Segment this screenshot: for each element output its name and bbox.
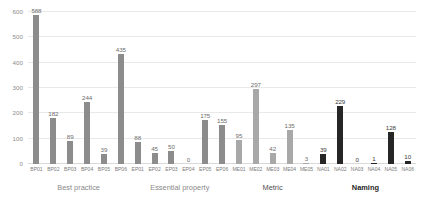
bar-value-label: 39: [320, 146, 327, 153]
bar-slot: 50: [163, 12, 180, 164]
x-axis-tick-labels: BP01BP02BP03BP04BP05BP06EP01EP02EP03EP04…: [28, 166, 416, 172]
bar-slot: 0: [180, 12, 197, 164]
bar[interactable]: 39: [101, 154, 107, 164]
x-axis-tick-label-na02: NA02: [332, 166, 349, 172]
bar-slot: 39: [96, 12, 113, 164]
bar-value-label: 244: [82, 94, 92, 101]
bar-value-label: 88: [134, 134, 141, 141]
bar-slot: 45: [146, 12, 163, 164]
bar[interactable]: 297: [253, 89, 259, 164]
x-axis-tick-label-bp05: BP05: [96, 166, 113, 172]
group-label-essential-property: Essential property: [129, 183, 230, 192]
bar-value-label: 229: [335, 98, 345, 105]
group-label-naming: Naming: [315, 183, 416, 192]
group-label-best-practice: Best practice: [28, 183, 129, 192]
bar-slot: 175: [197, 12, 214, 164]
y-axis-tick-label: 300: [12, 84, 23, 91]
bar[interactable]: 1: [371, 163, 377, 164]
y-axis-tick-label: 100: [12, 134, 23, 141]
bar[interactable]: 182: [50, 118, 56, 164]
x-axis-tick-label-me04: ME04: [281, 166, 298, 172]
bar[interactable]: 155: [219, 125, 225, 164]
bar[interactable]: 3: [303, 163, 309, 164]
bar-slot: 1: [366, 12, 383, 164]
bar-value-label: 1: [372, 155, 375, 162]
bar-value-label: 39: [101, 146, 108, 153]
bar-value-label: 0: [355, 156, 358, 163]
bar-value-label: 588: [31, 7, 41, 14]
x-axis-tick-label-bp01: BP01: [28, 166, 45, 172]
x-axis-tick-label-na04: NA04: [366, 166, 383, 172]
bar-value-label: 3: [305, 155, 308, 162]
bar[interactable]: 244: [84, 102, 90, 164]
bar-slot: 588: [28, 12, 45, 164]
x-axis-tick-label-ep01: EP01: [129, 166, 146, 172]
x-axis-tick-label-bp03: BP03: [62, 166, 79, 172]
bar-slot: 128: [382, 12, 399, 164]
bar-slot: 3: [298, 12, 315, 164]
x-axis-tick-label-ep05: EP05: [197, 166, 214, 172]
bar[interactable]: 95: [236, 140, 242, 164]
bar[interactable]: 175: [202, 120, 208, 164]
bar-chart: 0100200300400500600 58818289244394358845…: [0, 0, 423, 210]
bar-value-label: 42: [269, 145, 276, 152]
x-axis-tick-label-me03: ME03: [264, 166, 281, 172]
bar-slot: 95: [231, 12, 248, 164]
bar[interactable]: 435: [118, 54, 124, 164]
bar-slot: 297: [247, 12, 264, 164]
bar-slot: 10: [399, 12, 416, 164]
x-axis-tick-label-ep04: EP04: [180, 166, 197, 172]
bar[interactable]: 128: [388, 132, 394, 164]
bar-series: 5881828924439435884550017515595297421353…: [28, 12, 416, 164]
x-axis-tick-label-bp04: BP04: [79, 166, 96, 172]
bar-value-label: 435: [116, 46, 126, 53]
bar-value-label: 0: [187, 156, 190, 163]
bar-slot: 0: [349, 12, 366, 164]
bar[interactable]: 45: [152, 153, 158, 164]
bar-value-label: 135: [285, 122, 295, 129]
group-label-metric: Metric: [230, 183, 314, 192]
bar[interactable]: 42: [270, 153, 276, 164]
x-axis-tick-label-me05: ME05: [298, 166, 315, 172]
bar[interactable]: 50: [168, 151, 174, 164]
y-axis-tick-label: 0: [19, 160, 23, 167]
x-axis-tick-label-ep03: EP03: [163, 166, 180, 172]
bar-slot: 89: [62, 12, 79, 164]
bar[interactable]: 89: [67, 141, 73, 164]
bar-value-label: 155: [217, 117, 227, 124]
x-axis-group-labels: Best practiceEssential propertyMetricNam…: [28, 183, 416, 199]
bar-slot: 135: [281, 12, 298, 164]
bar-value-label: 50: [168, 143, 175, 150]
bar-value-label: 297: [251, 81, 261, 88]
bar[interactable]: 229: [337, 106, 343, 164]
bar-value-label: 45: [151, 145, 158, 152]
y-axis-tick-label: 500: [12, 33, 23, 40]
bar-value-label: 128: [386, 124, 396, 131]
bar[interactable]: 10: [405, 161, 411, 164]
x-axis-tick-label-na03: NA03: [349, 166, 366, 172]
x-axis-tick-label-me02: ME02: [247, 166, 264, 172]
x-axis-tick-label-ep02: EP02: [146, 166, 163, 172]
bar-slot: 88: [129, 12, 146, 164]
plot-area: 0100200300400500600 58818289244394358845…: [28, 12, 416, 164]
x-axis-tick-label-ep06: EP06: [214, 166, 231, 172]
y-axis-tick-label: 200: [12, 109, 23, 116]
bar[interactable]: 39: [320, 154, 326, 164]
x-axis-tick-label-na05: NA05: [382, 166, 399, 172]
y-axis-tick-label: 600: [12, 8, 23, 15]
bar-slot: 39: [315, 12, 332, 164]
bar-slot: 42: [264, 12, 281, 164]
bar[interactable]: 588: [33, 15, 39, 164]
bar-value-label: 95: [236, 132, 243, 139]
bar-value-label: 175: [200, 112, 210, 119]
y-axis-tick-label: 400: [12, 58, 23, 65]
bar[interactable]: 135: [287, 130, 293, 164]
bar-value-label: 10: [404, 153, 411, 160]
x-axis-tick-label-bp06: BP06: [112, 166, 129, 172]
x-axis-tick-label-me01: ME01: [231, 166, 248, 172]
x-axis-tick-label-bp02: BP02: [45, 166, 62, 172]
bar[interactable]: 88: [135, 142, 141, 164]
bar-value-label: 89: [67, 133, 74, 140]
x-axis-tick-label-na01: NA01: [315, 166, 332, 172]
x-axis-tick-label-na06: NA06: [399, 166, 416, 172]
